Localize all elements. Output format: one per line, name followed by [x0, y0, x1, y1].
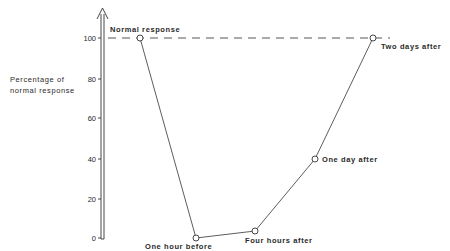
tick-20: 20 [88, 195, 96, 204]
point-one-day-after [312, 156, 318, 162]
y-axis-label-line2: normal response [10, 86, 75, 95]
tick-40: 40 [88, 155, 96, 164]
tick-100: 100 [83, 34, 96, 43]
tick-0: 0 [92, 234, 96, 243]
point-normal [137, 35, 143, 41]
y-axis-label-line1: Percentage of [10, 75, 65, 84]
label-one-hour-before: One hour before [145, 242, 212, 251]
data-points [137, 35, 376, 241]
point-four-hours-after [252, 228, 258, 234]
point-two-days-after [370, 35, 376, 41]
y-axis [97, 8, 108, 239]
tick-60: 60 [88, 114, 96, 123]
label-four-hours-after: Four hours after [245, 236, 313, 245]
data-line [140, 38, 373, 238]
label-two-days-after: Two days after [381, 42, 441, 51]
label-one-day-after: One day after [322, 155, 378, 164]
chart-canvas: 100 80 60 40 20 0 Percentage of normal r… [0, 0, 450, 251]
point-one-hour-before [193, 235, 199, 241]
label-normal-response: Normal response [110, 25, 180, 34]
tick-80: 80 [88, 75, 96, 84]
